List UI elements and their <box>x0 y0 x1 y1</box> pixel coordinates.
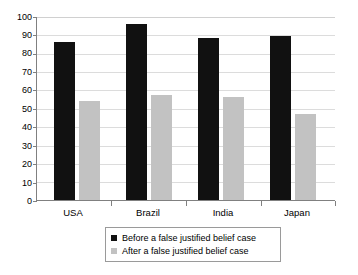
bar-india-before <box>198 38 219 200</box>
y-axis-tick-label: 10 <box>4 179 32 188</box>
y-axis-tick-label: 90 <box>4 31 32 40</box>
gridline <box>37 17 335 18</box>
bar-chart: 100 90 80 70 60 50 40 30 20 10 0 <box>0 0 358 275</box>
bar-japan-before <box>270 36 291 200</box>
y-axis-tick-label: 30 <box>4 142 32 151</box>
legend: Before a false justified belief case Aft… <box>105 227 281 262</box>
y-axis-tick-label: 40 <box>4 123 32 132</box>
bar-brazil-after <box>151 95 172 200</box>
legend-swatch-icon <box>111 235 117 241</box>
legend-item-label: Before a false justified belief case <box>122 233 256 243</box>
x-axis-tick <box>111 201 112 206</box>
y-axis-tick-label: 70 <box>4 68 32 77</box>
x-axis-label-india: India <box>188 207 258 218</box>
y-axis-tick-label: 20 <box>4 160 32 169</box>
y-axis-tick-label: 80 <box>4 49 32 58</box>
x-axis-label-brazil: Brazil <box>113 207 183 218</box>
x-axis-label-usa: USA <box>38 207 108 218</box>
y-axis-tick <box>33 201 37 202</box>
legend-item-before: Before a false justified belief case <box>111 232 274 244</box>
y-axis-tick-label: 60 <box>4 86 32 95</box>
bar-brazil-before <box>126 24 147 200</box>
legend-item-after: After a false justified belief case <box>111 245 274 257</box>
x-axis-tick <box>335 201 336 206</box>
y-axis-tick-label: 100 <box>4 13 32 22</box>
bar-japan-after <box>295 114 316 200</box>
y-axis-tick-label: 50 <box>4 105 32 114</box>
y-axis: 100 90 80 70 60 50 40 30 20 10 0 <box>0 0 32 275</box>
legend-item-label: After a false justified belief case <box>122 246 249 256</box>
x-axis-label-japan: Japan <box>262 207 332 218</box>
legend-swatch-icon <box>111 248 117 254</box>
plot-area <box>36 17 335 201</box>
bar-usa-after <box>79 101 100 200</box>
x-axis-tick <box>261 201 262 206</box>
bar-usa-before <box>54 42 75 200</box>
x-axis-tick <box>186 201 187 206</box>
bar-india-after <box>223 97 244 200</box>
y-axis-tick-label: 0 <box>4 197 32 206</box>
